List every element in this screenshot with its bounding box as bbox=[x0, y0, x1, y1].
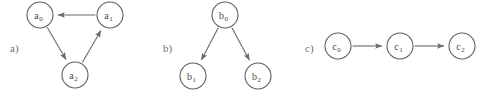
graph-edge-b0-to-b1 bbox=[201, 28, 218, 60]
graph-figure: a0a1a2b0b1b2c0c1c2 a)b)c) bbox=[0, 0, 482, 96]
graph-node-b0: b0 bbox=[212, 2, 238, 28]
panel-labels-layer: a)b)c) bbox=[10, 42, 314, 55]
panel-label-a: a) bbox=[10, 42, 19, 55]
graph-node-b2: b2 bbox=[245, 63, 271, 89]
graph-node-c1: c1 bbox=[387, 33, 413, 59]
node-label-subscript-c1: 1 bbox=[399, 46, 403, 54]
panel-label-c: c) bbox=[305, 42, 314, 55]
node-label-subscript-b2: 2 bbox=[257, 76, 261, 84]
graph-figure-canvas: a0a1a2b0b1b2c0c1c2 a)b)c) bbox=[0, 0, 482, 96]
graph-node-a0: a0 bbox=[27, 2, 53, 28]
node-label-base-b0: b bbox=[219, 10, 224, 21]
node-label-subscript-a2: 2 bbox=[74, 75, 78, 83]
node-label-subscript-a1: 1 bbox=[109, 15, 113, 23]
graph-node-a2: a2 bbox=[62, 62, 88, 88]
graph-edge-b0-to-b2 bbox=[232, 28, 250, 60]
panel-label-b: b) bbox=[163, 42, 173, 55]
graph-node-a1: a1 bbox=[97, 2, 123, 28]
node-label-subscript-c0: 0 bbox=[337, 46, 341, 54]
graph-node-c2: c2 bbox=[449, 33, 475, 59]
node-label-subscript-b1: 1 bbox=[192, 76, 196, 84]
graph-edge-a2-to-a1 bbox=[82, 31, 101, 63]
node-label-subscript-b0: 0 bbox=[224, 15, 228, 23]
node-label-subscript-c2: 2 bbox=[461, 46, 465, 54]
node-label-base-b2: b bbox=[252, 71, 257, 82]
node-label-base-b1: b bbox=[187, 71, 192, 82]
graph-node-b1: b1 bbox=[180, 63, 206, 89]
node-label-subscript-a0: 0 bbox=[39, 15, 43, 23]
graph-node-c0: c0 bbox=[325, 33, 351, 59]
graph-edge-a0-to-a2 bbox=[47, 28, 66, 60]
